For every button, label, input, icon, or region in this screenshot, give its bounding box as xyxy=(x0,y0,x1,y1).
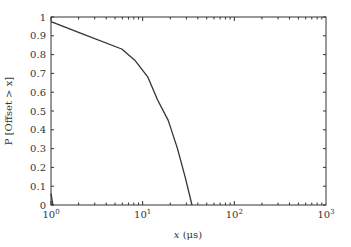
series-line xyxy=(51,22,192,205)
y-tick-label: 0.2 xyxy=(30,162,46,173)
x-tick-label: 102 xyxy=(226,208,243,220)
x-axis-label: x (μs) xyxy=(174,229,202,240)
y-tick-label: 0.4 xyxy=(30,124,46,135)
data-lines xyxy=(51,22,192,205)
x-tick-label: 103 xyxy=(317,208,334,220)
y-tick-label: 0.6 xyxy=(30,87,46,98)
y-tick-label: 0.1 xyxy=(30,181,46,192)
x-tick-label: 101 xyxy=(134,208,151,220)
y-axis-label: P [Offset > x] xyxy=(3,77,14,146)
y-tick-label: 0.5 xyxy=(30,106,46,117)
y-tick-label: 0.8 xyxy=(30,49,46,60)
y-tick-label: 0.3 xyxy=(30,143,46,154)
axis-ticks xyxy=(51,17,326,205)
x-tick-labels: 100101102103 xyxy=(42,208,334,220)
y-tick-label: 0.7 xyxy=(30,68,46,79)
y-tick-label: 0.9 xyxy=(30,30,46,41)
x-tick-label: 100 xyxy=(42,208,59,220)
y-tick-labels: 00.10.20.30.40.50.60.70.80.91 xyxy=(30,12,46,211)
ccdf-chart: 00.10.20.30.40.50.60.70.80.91 1001011021… xyxy=(0,0,351,247)
y-tick-label: 1 xyxy=(40,12,46,23)
plot-frame xyxy=(51,17,326,205)
